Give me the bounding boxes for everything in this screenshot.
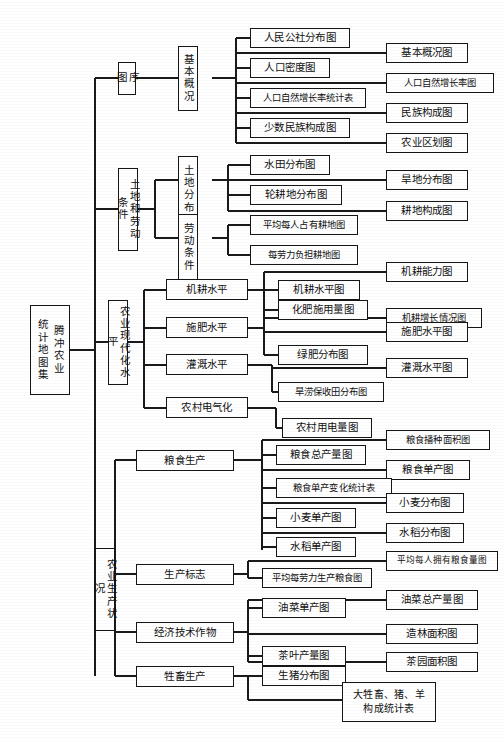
level2-node-mechanized-tillage[interactable]: 机耕水平: [166, 279, 248, 300]
leaf-agricultural-zoning-map[interactable]: 农业区划图: [386, 133, 468, 153]
leaf-grain-sown-area-map[interactable]: 粮食播种面积图: [386, 430, 490, 450]
level1-node-production-status[interactable]: 农业生产状况: [95, 548, 115, 631]
level2-node-fertilization[interactable]: 施肥水平: [166, 317, 248, 338]
root-node[interactable]: 腾冲农业 统计地图集: [30, 305, 70, 395]
level2-node-rural-electrification[interactable]: 农村电气化: [166, 397, 248, 418]
leaf-rice-distribution-map[interactable]: 水稻分布图: [386, 523, 464, 543]
leaf-rural-electricity-use-map[interactable]: 农村用电量图: [282, 418, 372, 438]
level1-node-land-labor[interactable]: 土地和劳动条件: [118, 168, 138, 251]
leaf-grain-per-capita-map[interactable]: 平均每人拥有粮食量图: [386, 551, 498, 571]
leaf-commune-distribution-map[interactable]: 人民公社分布图: [250, 28, 350, 48]
level2-node-land-distribution[interactable]: 土地分布: [178, 156, 198, 222]
leaf-rapeseed-total-output-map[interactable]: 油菜总产量图: [386, 590, 478, 610]
level2-node-production-indicator[interactable]: 生产标志: [136, 564, 234, 585]
leaf-fertilization-level-map[interactable]: 施肥水平图: [386, 322, 468, 342]
leaf-grain-per-laborer-map[interactable]: 平均每劳力生产粮食图: [262, 568, 372, 588]
leaf-grain-yield-change-table[interactable]: 粮食单产变化统计表: [276, 478, 392, 498]
leaf-population-growth-rate-table[interactable]: 人口自然增长率统计表: [250, 88, 366, 108]
leaf-wheat-distribution-map[interactable]: 小麦分布图: [386, 493, 464, 513]
level2-node-livestock[interactable]: 牲畜生产: [136, 666, 234, 687]
leaf-grain-total-output-map[interactable]: 粮食总产量图: [276, 445, 366, 465]
leaf-rapeseed-yield-map[interactable]: 油菜单产图: [262, 598, 346, 618]
leaf-tea-output-map[interactable]: 茶叶产量图: [262, 646, 346, 666]
leaf-basic-overview-map[interactable]: 基本概况图: [386, 43, 468, 63]
leaf-tea-plantation-area-map[interactable]: 茶园面积图: [386, 652, 478, 672]
leaf-ethnic-composition-map[interactable]: 民族构成图: [386, 103, 468, 123]
leaf-paddy-field-distribution-map[interactable]: 水田分布图: [250, 155, 330, 175]
level1-node-modernization[interactable]: 农业现代化水平: [108, 300, 128, 385]
leaf-livestock-composition-table[interactable]: 大牲畜、猪、羊构成统计表: [342, 682, 436, 722]
level2-node-labor-condition[interactable]: 劳动条件: [178, 214, 198, 280]
leaf-population-growth-rate-map[interactable]: 人口自然增长率图: [386, 73, 494, 93]
leaf-wheat-yield-map[interactable]: 小麦单产图: [276, 508, 356, 528]
leaf-minority-composition-map[interactable]: 少数民族构成图: [250, 118, 350, 138]
leaf-dry-land-distribution-map[interactable]: 旱地分布图: [386, 170, 468, 190]
leaf-fertilizer-usage-map[interactable]: 化肥施用量图: [278, 300, 368, 320]
level2-node-cash-crops[interactable]: 经济技术作物: [136, 622, 234, 643]
level1-node-xutu[interactable]: 序图: [118, 62, 136, 95]
leaf-rice-yield-map[interactable]: 水稻单产图: [276, 537, 356, 557]
leaf-population-density-map[interactable]: 人口密度图: [250, 58, 330, 78]
leaf-arable-land-per-capita-map[interactable]: 平均每人占有耕地图: [250, 215, 358, 235]
leaf-green-manure-distribution-map[interactable]: 绿肥分布图: [278, 345, 368, 365]
leaf-hog-distribution-map[interactable]: 生猪分布图: [262, 666, 346, 686]
root-label-left: 统计地图集: [36, 319, 48, 382]
leaf-arable-land-composition-map[interactable]: 耕地构成图: [386, 201, 468, 221]
leaf-afforestation-area-map[interactable]: 造林面积图: [386, 624, 478, 644]
leaf-irrigation-level-map[interactable]: 灌溉水平图: [386, 358, 468, 378]
leaf-mechanized-tillage-level-map[interactable]: 机耕水平图: [278, 280, 360, 300]
diagram-canvas: 腾冲农业 统计地图集 序图 土地和劳动条件 农业现代化水平 农业生产状况 基本概…: [0, 0, 504, 738]
leaf-arable-land-per-laborer-map[interactable]: 每劳力负担耕地图: [250, 245, 358, 265]
leaf-grain-yield-map[interactable]: 粮食单产图: [386, 460, 470, 480]
level2-node-basic-overview[interactable]: 基本概况: [178, 46, 198, 111]
root-label-right: 腾冲农业: [52, 325, 64, 375]
leaf-drought-flood-safe-field-map[interactable]: 旱涝保收田分布图: [278, 382, 384, 402]
leaf-rotation-land-distribution-map[interactable]: 轮耕地分布图: [250, 185, 342, 205]
leaf-tillage-capacity-map[interactable]: 机耕能力图: [386, 262, 468, 282]
level2-node-grain-production[interactable]: 粮食生产: [136, 450, 234, 471]
level2-node-irrigation[interactable]: 灌溉水平: [166, 354, 248, 375]
